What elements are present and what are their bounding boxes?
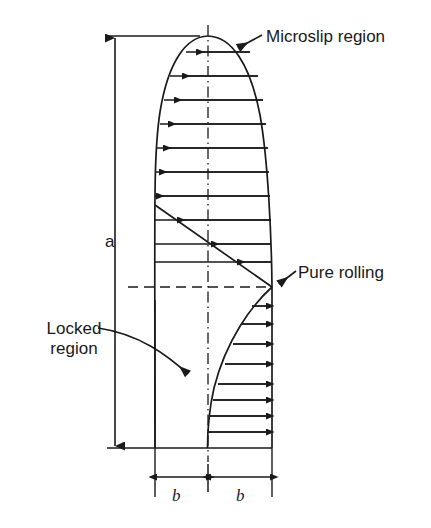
- dimension-a-label: a: [105, 232, 114, 252]
- upper-left-profile-curve: [155, 36, 208, 448]
- locked-region-label-line2: region: [22, 339, 126, 359]
- locked-region-label-line1: Locked: [22, 319, 126, 339]
- dimension-b-right-label: b: [236, 486, 245, 506]
- locked-region-label: Locked region: [22, 319, 126, 358]
- microslip-region-label: Microslip region: [266, 27, 385, 47]
- dimension-a: [105, 36, 200, 446]
- locked-region-diagonal: [155, 205, 272, 287]
- contact-patch-outline: [155, 36, 272, 448]
- pure-rolling-leader-line: [279, 271, 296, 284]
- lower-traction-arrows: [208, 306, 266, 432]
- dimension-extension-lines: [155, 300, 272, 497]
- lower-left-profile-curve: [208, 287, 273, 448]
- microslip-leader-line: [238, 35, 262, 48]
- upper-traction-arrows: [156, 52, 272, 262]
- pure-rolling-label: Pure rolling: [298, 263, 384, 283]
- dimension-b-left-label: b: [172, 486, 181, 506]
- upper-profile-tick-lines: [155, 52, 272, 262]
